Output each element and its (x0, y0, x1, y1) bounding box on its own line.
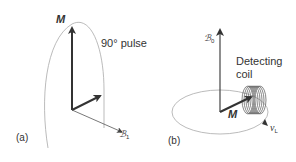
b1-label: ℬ1 (119, 130, 129, 140)
panel-a-label: (a) (16, 133, 28, 143)
nmr-diagram (0, 0, 296, 162)
nu-subscript: L (274, 128, 277, 134)
coil-label-line2: coil (236, 69, 253, 80)
b0-subscript: 0 (211, 38, 214, 44)
magnetization-label-a: M (56, 14, 65, 25)
b0-symbol: ℬ (204, 33, 211, 43)
b1-subscript: 1 (126, 134, 129, 140)
larmor-frequency-label: νL (270, 123, 278, 134)
magnetization-label-b: M (228, 109, 237, 120)
b0-label: ℬ0 (204, 34, 214, 44)
magnetization-vector-rotated (72, 96, 100, 110)
panel-b-figure (172, 30, 268, 134)
panel-b-label: (b) (168, 136, 180, 146)
coil-label-line1: Detecting (236, 56, 282, 67)
b1-axis (72, 110, 122, 132)
b1-symbol: ℬ (119, 129, 126, 139)
pulse-label: 90° pulse (101, 38, 147, 49)
rotation-arc (45, 22, 104, 148)
